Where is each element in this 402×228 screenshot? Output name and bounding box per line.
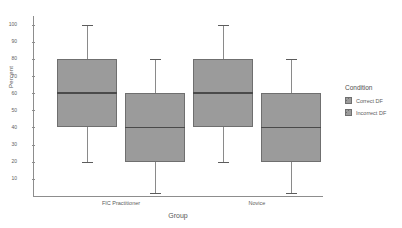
legend-items: Correct DFIncorrect DF — [345, 97, 401, 116]
y-tick-label: 100 — [0, 22, 17, 27]
whisker-cap-upper — [218, 25, 229, 27]
y-tick — [32, 127, 35, 128]
y-tick-label: 70 — [0, 74, 17, 79]
whisker-cap-lower — [286, 193, 297, 195]
median-line — [125, 127, 185, 129]
whisker-lower — [223, 127, 224, 161]
whisker-upper — [223, 25, 224, 59]
whisker-lower — [291, 162, 292, 193]
whisker-cap-lower — [82, 162, 93, 164]
y-tick — [32, 145, 35, 146]
boxplot-chart: Percent Group 100908070605040302010 FIC … — [0, 0, 402, 228]
y-tick — [32, 110, 35, 111]
legend-swatch-icon — [345, 109, 352, 116]
y-tick-label: 10 — [0, 176, 17, 181]
y-tick — [32, 25, 35, 26]
y-tick-label: 30 — [0, 142, 17, 147]
y-tick-label: 90 — [0, 39, 17, 44]
legend-item-label: Correct DF — [356, 98, 383, 104]
whisker-lower — [155, 162, 156, 193]
y-tick — [32, 179, 35, 180]
y-tick — [32, 76, 35, 77]
y-tick-label: 50 — [0, 108, 17, 113]
legend-swatch-icon — [345, 97, 352, 104]
whisker-cap-lower — [150, 193, 161, 195]
y-tick — [32, 42, 35, 43]
median-line — [261, 127, 321, 129]
whisker-lower — [87, 127, 88, 161]
legend-title: Condition — [345, 84, 401, 91]
x-group-label: FIC Practitioner — [102, 200, 140, 206]
y-axis-line — [33, 16, 34, 196]
whisker-cap-upper — [82, 25, 93, 27]
plot-area: 100908070605040302010 FIC PractitionerNo… — [33, 16, 323, 196]
y-tick-label: 80 — [0, 56, 17, 61]
y-tick-label: 60 — [0, 91, 17, 96]
x-group-label: Novice — [249, 200, 266, 206]
legend-item-label: Incorrect DF — [356, 110, 386, 116]
median-line — [57, 92, 117, 94]
legend-item[interactable]: Incorrect DF — [345, 109, 401, 116]
whisker-upper — [155, 59, 156, 93]
legend-item[interactable]: Correct DF — [345, 97, 401, 104]
legend: Condition Correct DFIncorrect DF — [345, 84, 401, 121]
median-line — [193, 92, 253, 94]
whisker-cap-upper — [286, 59, 297, 61]
y-tick — [32, 162, 35, 163]
whisker-upper — [291, 59, 292, 93]
x-axis-line — [33, 196, 323, 197]
whisker-cap-upper — [150, 59, 161, 61]
y-tick-label: 20 — [0, 159, 17, 164]
whisker-upper — [87, 25, 88, 59]
y-tick-label: 40 — [0, 125, 17, 130]
whisker-cap-lower — [218, 162, 229, 164]
y-tick — [32, 59, 35, 60]
x-axis-title: Group — [33, 212, 323, 219]
y-tick — [32, 93, 35, 94]
